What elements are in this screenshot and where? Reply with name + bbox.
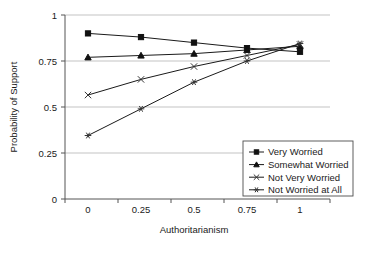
y-tick-label-075: 0.75: [39, 56, 58, 67]
chart-figure: 1 0.75 0.5 0.25 0 0 0.25 0.5 0.75 1 Auth…: [0, 0, 383, 253]
x-tick-label-05: 0.5: [187, 204, 200, 215]
legend-label-1: Very Worried: [268, 146, 323, 157]
square-marker-icon: [254, 150, 258, 154]
y-tick-label-0: 0: [52, 194, 57, 205]
legend-label-4: Not Worried at All: [268, 184, 342, 195]
data-point-s1-p3: [191, 40, 196, 45]
y-tick-label-1: 1: [52, 10, 57, 21]
x-tick-label-075: 0.75: [238, 204, 257, 215]
x-tick-label-1: 1: [297, 204, 302, 215]
x-axis-title: Authoritarianism: [160, 224, 229, 235]
legend-label-2: Somewhat Worried: [268, 159, 349, 170]
legend-label-3: Not Very Worried: [268, 172, 340, 183]
data-point-s1-p1: [85, 31, 90, 36]
data-point-s1-p2: [138, 34, 143, 39]
y-axis-title: Probability of Support: [8, 61, 19, 152]
y-tick-label-05: 0.5: [44, 102, 57, 113]
data-point-s1-p5: [297, 49, 302, 54]
chart-background: [0, 0, 383, 253]
line-chart: 1 0.75 0.5 0.25 0 0 0.25 0.5 0.75 1 Auth…: [0, 0, 383, 253]
y-tick-label-025: 0.25: [39, 148, 58, 159]
x-tick-label-025: 0.25: [132, 204, 151, 215]
x-tick-label-0: 0: [85, 204, 90, 215]
chart-legend: Very WorriedSomewhat WorriedNot Very Wor…: [243, 141, 353, 196]
